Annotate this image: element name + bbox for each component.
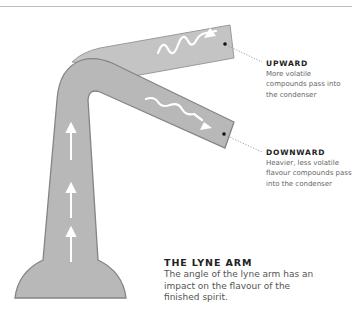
- downward-callout: DOWNWARD Heavier, less volatile flavour …: [266, 147, 352, 189]
- downward-leader-line: [225, 135, 262, 152]
- caption-title: THE LYNE ARM: [164, 256, 314, 269]
- upward-heading: UPWARD: [266, 58, 352, 69]
- caption-description: The angle of the lyne arm has an impact …: [164, 269, 314, 304]
- upward-text: More volatile compounds pass into the co…: [266, 69, 352, 100]
- downward-heading: DOWNWARD: [266, 147, 352, 158]
- upward-callout: UPWARD More volatile compounds pass into…: [266, 58, 352, 100]
- lyne-arm-caption: THE LYNE ARM The angle of the lyne arm h…: [164, 256, 314, 304]
- downward-text: Heavier, less volatile flavour compounds…: [266, 158, 352, 189]
